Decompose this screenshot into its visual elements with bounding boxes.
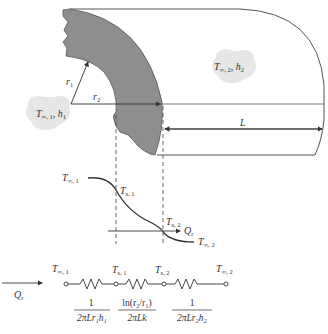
cylinder-wall — [63, 9, 162, 155]
resistance-2: ln(r₂/r₁) 2πLk — [118, 298, 156, 323]
profile-t-inf2-label: T∞, 2 — [198, 236, 215, 248]
node-t-inf2-label: T∞, 2 — [216, 263, 233, 275]
resistance-3: 1 2πLr₂h₂ — [172, 298, 212, 323]
thermal-circuit — [64, 279, 228, 289]
profile-ts1-label: Ts, 1 — [120, 185, 135, 197]
svg-text:2πLr₂h₂: 2πLr₂h₂ — [177, 313, 208, 323]
node-ts1-label: Ts, 1 — [112, 264, 127, 276]
svg-text:2πLk: 2πLk — [127, 313, 147, 323]
node-ts2-label: Ts, 2 — [155, 264, 170, 276]
profile-t-inf1-label: T∞, 1 — [62, 172, 79, 184]
profile-ts2-label: Ts, 2 — [166, 216, 181, 228]
svg-text:2πLr₁h₁: 2πLr₁h₁ — [77, 313, 107, 323]
node-t-inf1-label: T∞, 1 — [52, 263, 69, 275]
svg-text:1: 1 — [89, 298, 94, 308]
temperature-profile-curve — [88, 178, 194, 242]
r1-arrow — [71, 62, 88, 104]
svg-text:1: 1 — [190, 298, 195, 308]
r1-label: r1 — [66, 76, 73, 88]
length-label: L — [239, 117, 246, 128]
r2-label: r2 — [93, 91, 100, 103]
circuit-heat-flow-label: Qr — [14, 289, 24, 301]
diagram-canvas: T∞, 1, h1 T∞, 2, h2 r1 r2 L T∞, 1 Ts, 1 … — [0, 0, 328, 334]
svg-text:ln(r₂/r₁): ln(r₂/r₁) — [122, 298, 151, 309]
resistance-1: 1 2πLr₁h₁ — [74, 298, 110, 323]
profile-heat-flow-label: Qr — [184, 225, 194, 237]
